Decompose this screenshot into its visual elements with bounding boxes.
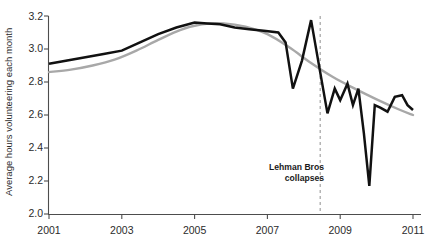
y-tick-label-3-2: 3.2 <box>28 10 43 22</box>
lehman-annotation-line1: Lehman Bros <box>269 162 324 172</box>
y-tick-label-2-8: 2.8 <box>28 75 43 87</box>
y-tick-label-2-6: 2.6 <box>28 108 43 120</box>
line-chart: Average hours volunteering each month 2.… <box>0 0 434 246</box>
x-tick-label-2003: 2003 <box>110 224 134 236</box>
y-tick-label-2-4: 2.4 <box>28 141 43 153</box>
x-tick-label-2011: 2011 <box>402 224 425 236</box>
lehman-annotation-line2: collapses <box>285 173 324 183</box>
x-tick-label-2005: 2005 <box>183 224 207 236</box>
y-tick-label-2-0: 2.0 <box>28 207 43 219</box>
y-tick-label-2-2: 2.2 <box>28 174 43 186</box>
x-tick-label-2001: 2001 <box>37 224 61 236</box>
chart-background <box>0 0 434 246</box>
x-tick-label-2009: 2009 <box>329 224 353 236</box>
chart-container: Average hours volunteering each month 2.… <box>0 0 434 246</box>
y-tick-label-3-0: 3.0 <box>28 42 43 54</box>
x-tick-label-2007: 2007 <box>256 224 280 236</box>
y-axis-title: Average hours volunteering each month <box>3 28 14 196</box>
